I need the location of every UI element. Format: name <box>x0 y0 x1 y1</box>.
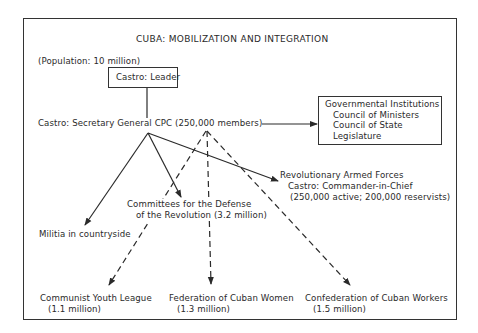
women-federation-name: Federation of Cuban Women <box>169 293 294 304</box>
workers-confederation-name: Confederation of Cuban Workers <box>305 293 448 304</box>
armed-forces-heading: Revolutionary Armed Forces <box>280 170 404 181</box>
government-item: Council of Ministers <box>325 110 441 121</box>
leader-label: Castro: Leader <box>116 72 180 83</box>
government-box: Governmental Institutions Council of Min… <box>318 96 442 145</box>
government-item: Legislature <box>325 131 441 142</box>
workers-confederation-size: (1.5 million) <box>313 304 366 315</box>
party-label: Castro: Secretary General CPC (250,000 m… <box>38 118 262 129</box>
leader-box: Castro: Leader <box>108 67 178 88</box>
government-item: Council of State <box>325 120 441 131</box>
youth-league-size: (1.1 million) <box>48 304 101 315</box>
committees-line1: Committees for the Defense <box>127 199 251 210</box>
armed-forces-size: (250,000 active; 200,000 reservists) <box>290 192 450 203</box>
party-to-committees-arrow <box>148 133 181 197</box>
government-heading: Governmental Institutions <box>325 99 441 110</box>
connector-lines <box>0 0 478 333</box>
militia-label: Militia in countryside <box>39 229 131 240</box>
women-federation-size: (1.3 million) <box>177 304 230 315</box>
committees-line2: of the Revolution (3.2 million) <box>136 210 267 221</box>
diagram-title: CUBA: MOBILIZATION AND INTEGRATION <box>136 34 328 45</box>
population-label: (Population: 10 million) <box>38 56 140 67</box>
party-to-armed-forces-arrow <box>148 133 278 181</box>
youth-league-name: Communist Youth League <box>40 293 152 304</box>
armed-forces-commander: Castro: Commander-in-Chief <box>288 181 413 192</box>
